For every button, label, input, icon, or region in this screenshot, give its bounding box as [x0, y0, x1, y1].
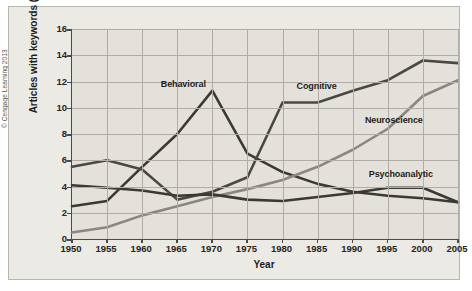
y-tick-label: 12: [37, 77, 67, 87]
gridline-horizontal: [72, 213, 458, 214]
plot-area: [71, 29, 458, 240]
gridline-horizontal: [72, 187, 458, 188]
x-tick-label: 1985: [297, 243, 337, 255]
series-line-neuroscience: [72, 80, 458, 232]
x-tick-label: 1970: [191, 243, 231, 255]
gridline-horizontal: [72, 134, 458, 135]
y-tick-label: 10: [37, 103, 67, 113]
y-tick-label: 6: [37, 155, 67, 165]
x-axis-tick-labels: 1950195519601965197019751980198519901995…: [71, 243, 457, 257]
y-tick-label: 4: [37, 182, 67, 192]
x-tick-label: 1975: [226, 243, 266, 255]
gridline-horizontal: [72, 55, 458, 56]
gridline-horizontal: [72, 29, 458, 30]
x-tick-label: 1965: [156, 243, 196, 255]
series-label-psychoanalytic: Psychoanalytic: [369, 169, 433, 179]
series-label-behavioral: Behavioral: [161, 79, 206, 89]
y-tick-label: 2: [37, 208, 67, 218]
x-tick-label: 2005: [437, 243, 472, 255]
y-tick-label: 16: [37, 24, 67, 34]
x-tick-label: 1955: [86, 243, 126, 255]
x-axis-title: Year: [71, 259, 457, 270]
x-tick-label: 1960: [121, 243, 161, 255]
series-line-psychoanalytic: [72, 185, 458, 202]
y-axis-tick-labels: 0246810121416: [31, 29, 67, 239]
x-tick-label: 2000: [402, 243, 442, 255]
y-tick-label: 14: [37, 50, 67, 60]
series-label-cognitive: Cognitive: [297, 81, 337, 91]
x-tick-label: 1995: [367, 243, 407, 255]
gridline-horizontal: [72, 108, 458, 109]
gridline-horizontal: [72, 160, 458, 161]
x-tick-label: 1950: [51, 243, 91, 255]
chart-panel: Articles with keywords (%) 0246810121416…: [8, 6, 460, 280]
y-tick-label: 8: [37, 129, 67, 139]
gridline-vertical: [458, 29, 459, 239]
gridline-horizontal: [72, 82, 458, 83]
x-tick-label: 1990: [332, 243, 372, 255]
x-tick-label: 1980: [262, 243, 302, 255]
series-label-neuroscience: Neuroscience: [365, 115, 423, 125]
